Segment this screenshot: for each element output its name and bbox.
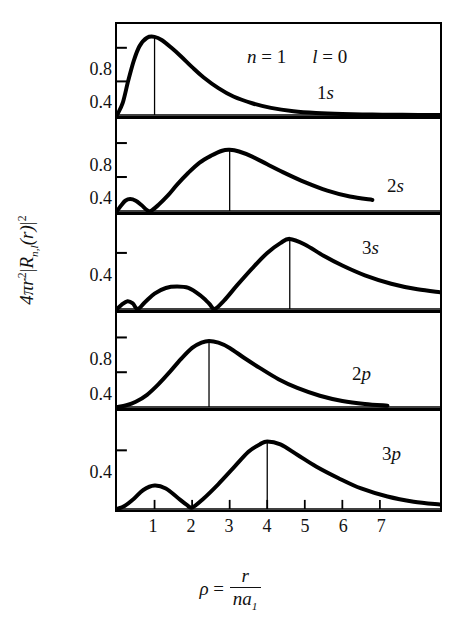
orbital-label-3s: 3s bbox=[362, 237, 379, 259]
x-axis-equals: = bbox=[213, 578, 224, 599]
y-axis-bar-right: | bbox=[16, 221, 37, 225]
y-tick-label: 0.4 bbox=[90, 93, 113, 111]
y-tick-label: 0.4 bbox=[90, 385, 113, 403]
y-axis-coefficient: 4π bbox=[16, 286, 37, 305]
x-tick-label: 2 bbox=[187, 516, 196, 537]
y-tick-label-group: 0.40.80.40.80.40.40.80.4 bbox=[60, 22, 112, 512]
plot-panel-1s: 1sn = 1l = 0 bbox=[115, 22, 442, 118]
quantum-number-annotation: n = 1l = 0 bbox=[247, 46, 347, 68]
curve-canvas-2s bbox=[117, 119, 440, 212]
y-axis-bar-left: | bbox=[16, 269, 37, 273]
y-axis-argument: (r) bbox=[16, 225, 37, 245]
orbital-label-3p: 3p bbox=[382, 443, 401, 465]
y-tick-label: 0.4 bbox=[90, 266, 113, 284]
x-tick-label: 4 bbox=[263, 516, 272, 537]
x-axis-denominator: na1 bbox=[230, 588, 261, 613]
y-axis-label: 4πr2|Rn,l(r)|2 bbox=[16, 160, 40, 360]
radial-density-curve-2p bbox=[117, 341, 387, 407]
x-axis-rho: ρ bbox=[199, 578, 208, 599]
x-tick-label-group: 1234567 bbox=[115, 516, 442, 542]
y-tick-label: 0.4 bbox=[90, 189, 113, 207]
radial-density-curve-2s bbox=[117, 150, 372, 212]
curve-canvas-1s bbox=[117, 24, 440, 116]
curve-canvas-3s bbox=[117, 215, 440, 310]
plot-panel-2s: 2s bbox=[115, 118, 442, 214]
n-quantum-label: n = 1 bbox=[247, 46, 286, 67]
x-tick-label: 6 bbox=[339, 516, 348, 537]
orbital-label-2p: 2p bbox=[352, 363, 371, 385]
plot-panel-2p: 2p bbox=[115, 312, 442, 410]
y-axis-r-exponent: 2 bbox=[16, 272, 29, 278]
x-axis-numerator: r bbox=[230, 565, 261, 588]
panel-stack: 1sn = 1l = 02s3s2p3p bbox=[115, 22, 442, 512]
y-axis-r-symbol: r bbox=[16, 278, 37, 285]
plot-panel-3s: 3s bbox=[115, 214, 442, 312]
curve-canvas-2p bbox=[117, 313, 440, 408]
y-axis-outer-exponent: 2 bbox=[16, 215, 29, 221]
x-tick-label: 1 bbox=[149, 516, 158, 537]
y-axis-R-subscript: n,l bbox=[28, 245, 40, 257]
y-tick-label: 0.8 bbox=[90, 350, 113, 368]
y-tick-label: 0.8 bbox=[90, 156, 113, 174]
x-axis-fraction: r na1 bbox=[230, 565, 261, 613]
x-tick-label: 7 bbox=[377, 516, 386, 537]
l-quantum-label: l = 0 bbox=[312, 46, 347, 67]
x-axis-label: ρ = r na1 bbox=[0, 567, 461, 615]
y-tick-label: 0.4 bbox=[90, 463, 113, 481]
x-tick-label: 5 bbox=[301, 516, 310, 537]
y-axis-R-symbol: R bbox=[16, 257, 37, 269]
orbital-label-1s: 1s bbox=[317, 82, 334, 104]
orbital-label-2s: 2s bbox=[387, 175, 404, 197]
radial-density-curve-3s bbox=[117, 239, 440, 309]
plot-panel-3p: 3p bbox=[115, 410, 442, 512]
radial-probability-figure: 4πr2|Rn,l(r)|2 0.40.80.40.80.40.40.80.4 … bbox=[0, 0, 461, 618]
x-tick-label: 3 bbox=[225, 516, 234, 537]
y-tick-label: 0.8 bbox=[90, 60, 113, 78]
